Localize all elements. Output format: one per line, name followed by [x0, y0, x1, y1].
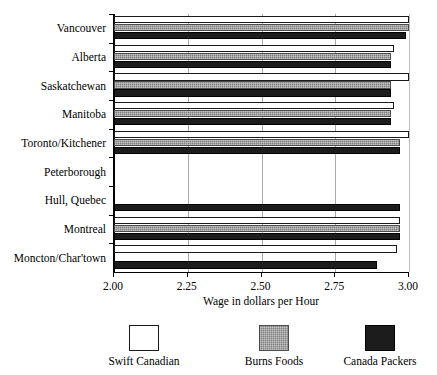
category-rows: VancouverAlbertaSaskatchewanManitobaToro…: [114, 14, 409, 272]
bar-group: [114, 159, 409, 183]
bar-group: [114, 16, 409, 40]
plot-area: VancouverAlbertaSaskatchewanManitobaToro…: [113, 14, 410, 272]
y-axis-tick: [109, 157, 115, 158]
bar-swift-canadian: [114, 102, 394, 109]
category-row: Vancouver: [114, 14, 409, 43]
x-axis-tick-label: 3.00: [378, 280, 437, 292]
bar-canada-packers: [114, 118, 391, 125]
legend-item: Swift Canadian: [84, 325, 204, 367]
category-row: Toronto/Kitchener: [114, 129, 409, 158]
bar-group: [114, 131, 409, 155]
y-axis-tick: [109, 215, 115, 216]
y-axis-tick: [109, 71, 115, 72]
bar-canada-packers: [114, 261, 377, 268]
bar-canada-packers: [114, 61, 391, 68]
category-row: Saskatchewan: [114, 71, 409, 100]
x-axis-tick: [408, 272, 409, 277]
x-axis-tick: [187, 272, 188, 277]
bar-group: [114, 45, 409, 69]
bar-burns-foods: [114, 139, 400, 146]
x-axis-tick: [334, 272, 335, 277]
y-axis-label: Hull, Quebec: [1, 194, 106, 207]
bar-group: [114, 73, 409, 97]
y-axis-tick: [109, 186, 115, 187]
bar-burns-foods: [114, 225, 400, 232]
bar-swift-canadian: [114, 16, 409, 23]
legend-label: Burns Foods: [214, 355, 334, 367]
bar-group: [114, 245, 409, 269]
bar-burns-foods: [114, 53, 391, 60]
y-axis-label: Toronto/Kitchener: [1, 136, 106, 149]
category-row: Montreal: [114, 215, 409, 244]
bar-swift-canadian: [114, 73, 409, 80]
y-axis-label: Moncton/Char'town: [1, 251, 106, 264]
y-axis-tick: [109, 100, 115, 101]
bar-swift-canadian: [114, 131, 409, 138]
x-axis-tick-label: 2.75: [304, 280, 364, 292]
x-axis-tick-label: 2.00: [83, 280, 143, 292]
bar-burns-foods: [114, 110, 391, 117]
y-axis-tick: [109, 14, 115, 15]
legend-swatch-black-icon: [365, 325, 395, 351]
y-axis-label: Montreal: [1, 222, 106, 235]
bar-swift-canadian: [114, 45, 394, 52]
category-row: Alberta: [114, 43, 409, 72]
legend-item: Burns Foods: [214, 325, 334, 367]
bar-group: [114, 188, 409, 212]
legend-label: Swift Canadian: [84, 355, 204, 367]
bar-canada-packers: [114, 147, 400, 154]
x-axis-tick: [261, 272, 262, 277]
legend-label: Canada Packers: [320, 355, 437, 367]
y-axis-label: Peterborough: [1, 165, 106, 178]
y-axis-tick: [109, 43, 115, 44]
y-axis-tick: [109, 129, 115, 130]
x-axis-tick: [113, 272, 114, 277]
y-axis-label: Saskatchewan: [1, 79, 106, 92]
legend-item: Canada Packers: [320, 325, 437, 367]
legend-swatch-white-icon: [129, 325, 159, 351]
category-row: Peterborough: [114, 157, 409, 186]
bar-swift-canadian: [114, 245, 397, 252]
gridline-3.00: [409, 14, 410, 272]
y-axis-label: Vancouver: [1, 22, 106, 35]
bar-canada-packers: [114, 233, 400, 240]
wage-bar-chart: VancouverAlbertaSaskatchewanManitobaToro…: [0, 0, 437, 375]
y-axis-tick: [109, 243, 115, 244]
bar-swift-canadian: [114, 217, 400, 224]
bar-burns-foods: [114, 81, 391, 88]
bar-canada-packers: [114, 204, 400, 211]
legend-swatch-gray-hatched-icon: [259, 325, 289, 351]
y-axis-label: Alberta: [1, 50, 106, 63]
x-axis-tick-label: 2.25: [157, 280, 217, 292]
y-axis-label: Manitoba: [1, 108, 106, 121]
category-row: Moncton/Char'town: [114, 243, 409, 272]
bar-canada-packers: [114, 32, 406, 39]
x-axis-tick-label: 2.50: [231, 280, 291, 292]
bar-group: [114, 102, 409, 126]
category-row: Hull, Quebec: [114, 186, 409, 215]
bar-burns-foods: [114, 24, 409, 31]
bar-group: [114, 217, 409, 241]
chart-legend: Swift CanadianBurns FoodsCanada Packers: [0, 325, 437, 375]
category-row: Manitoba: [114, 100, 409, 129]
bar-canada-packers: [114, 89, 391, 96]
x-axis-title: Wage in dollars per Hour: [113, 295, 409, 307]
